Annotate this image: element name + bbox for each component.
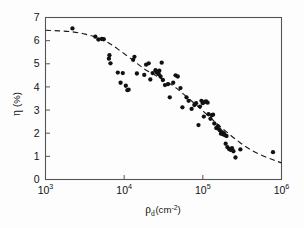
- data-point: [142, 73, 146, 77]
- data-point: [202, 114, 206, 118]
- data-point: [168, 95, 172, 99]
- data-point: [102, 37, 106, 41]
- data-point: [124, 84, 128, 88]
- data-point: [189, 107, 193, 111]
- data-point: [211, 113, 215, 117]
- data-point: [224, 134, 228, 138]
- data-point: [132, 55, 136, 59]
- y-tick-label-3: 3: [34, 104, 40, 116]
- svg-text:η(%): η(%): [10, 92, 23, 116]
- data-point: [231, 149, 235, 153]
- data-point: [118, 81, 122, 85]
- y-tick-label-1: 1: [34, 150, 40, 162]
- data-point: [194, 101, 198, 105]
- data-point: [108, 61, 112, 65]
- data-point: [271, 150, 275, 154]
- x-axis-unit: (cm: [155, 204, 171, 215]
- data-point: [116, 70, 120, 74]
- scatter-plot: 01234567 103104105106 η(%) ρd(cm-2): [0, 0, 304, 228]
- data-point: [121, 71, 125, 75]
- data-point: [171, 81, 175, 85]
- data-point: [238, 147, 242, 151]
- data-point: [176, 74, 180, 78]
- data-point: [160, 60, 164, 64]
- y-tick-label-4: 4: [34, 81, 40, 93]
- y-tick-label-6: 6: [34, 34, 40, 46]
- data-point: [107, 53, 111, 57]
- data-point: [196, 123, 200, 127]
- data-point: [126, 88, 130, 92]
- data-point: [233, 155, 237, 159]
- data-point: [198, 104, 202, 108]
- data-point: [166, 82, 170, 86]
- data-point: [147, 61, 151, 65]
- data-point: [135, 71, 139, 75]
- y-axis-symbol: η: [10, 110, 23, 116]
- y-axis-title: η(%): [10, 92, 23, 116]
- data-point: [212, 121, 216, 125]
- data-point: [180, 105, 184, 109]
- data-point: [70, 26, 74, 30]
- data-point: [178, 86, 182, 90]
- data-point: [161, 78, 165, 82]
- y-tick-label-5: 5: [34, 57, 40, 69]
- x-axis-unit-close: ): [177, 204, 180, 215]
- figure-container: 01234567 103104105106 η(%) ρd(cm-2): [0, 0, 304, 228]
- data-point: [186, 99, 190, 103]
- y-tick-label-2: 2: [34, 127, 40, 139]
- data-point: [157, 69, 161, 73]
- data-point: [205, 101, 209, 105]
- y-axis-unit: (%): [11, 92, 22, 107]
- data-point: [148, 77, 152, 81]
- data-point: [208, 117, 212, 121]
- y-tick-label-7: 7: [34, 11, 40, 23]
